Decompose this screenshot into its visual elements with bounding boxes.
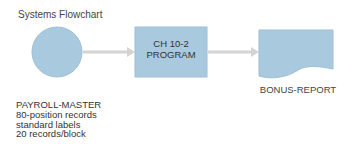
- process-label-line: PROGRAM: [135, 49, 207, 60]
- output-document-shape: [259, 30, 333, 78]
- arrow-process-to-output: [208, 47, 259, 57]
- output-label: BONUS-REPORT: [258, 84, 338, 95]
- input-circle-shape: [32, 27, 82, 77]
- arrow-input-to-process: [83, 47, 135, 57]
- process-label-line: CH 10-2: [135, 38, 207, 49]
- process-label: CH 10-2 PROGRAM: [135, 38, 207, 60]
- input-label-line: 20 records/block: [16, 129, 101, 139]
- input-label: PAYROLL-MASTER 80-position records stand…: [16, 100, 101, 139]
